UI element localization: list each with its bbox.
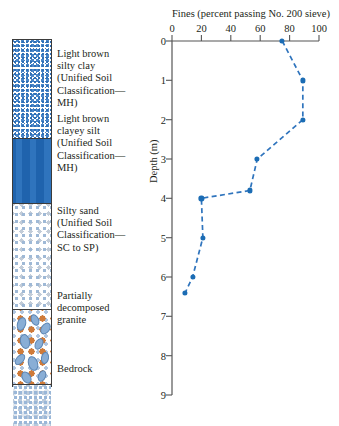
soil-layer-silty-clay — [13, 40, 51, 138]
soil-label-line: Partially — [57, 290, 110, 302]
soil-label-bedrock: Bedrock — [57, 363, 93, 375]
granite-clast — [40, 351, 50, 364]
soil-label-line: MH) — [57, 97, 125, 109]
soil-label-line: (Unified Soil — [57, 217, 125, 229]
granite-clast — [36, 369, 48, 383]
granite-clast — [38, 321, 51, 337]
granite-clast — [26, 355, 40, 372]
soil-label-decomposed-granite: Partially decomposed granite — [57, 290, 110, 327]
soil-layer-bedrock — [13, 384, 51, 426]
soil-layer-silty-sand — [13, 203, 51, 309]
soil-profile-column — [12, 39, 52, 387]
chart-axes — [150, 8, 335, 398]
granite-clast — [13, 352, 27, 367]
soil-label-line: granite — [57, 314, 110, 326]
soil-label-line: SC to SP) — [57, 242, 125, 254]
soil-label-line: (Unified Soil — [57, 72, 125, 84]
soil-label-line: MH) — [57, 162, 125, 174]
soil-label-line: Bedrock — [57, 363, 93, 375]
granite-clast — [33, 337, 46, 351]
soil-label-line: Classification— — [57, 85, 125, 97]
soil-label-silty-sand: Silty sand (Unified Soil Classification—… — [57, 205, 125, 254]
granite-clast — [29, 313, 41, 327]
soil-layer-decomposed-granite — [13, 309, 51, 384]
fines-vs-depth-chart: Fines (percent passing No. 200 sieve) 0 … — [150, 8, 335, 398]
soil-label-silty-clay: Light brown silty clay (Unified Soil Cla… — [57, 48, 125, 109]
x-axis-ticks — [172, 35, 319, 41]
granite-clast — [19, 333, 32, 350]
soil-layer-clayey-silt — [13, 138, 51, 203]
soil-label-line: Silty sand — [57, 205, 125, 217]
soil-label-clayey-silt: Light brown clayey silt (Unified Soil Cl… — [57, 113, 125, 174]
y-axis-ticks — [166, 41, 172, 395]
soil-label-line: decomposed — [57, 302, 110, 314]
soil-label-line: clayey silt — [57, 125, 125, 137]
soil-label-line: Light brown — [57, 113, 125, 125]
soil-label-line: (Unified Soil — [57, 137, 125, 149]
soil-label-line: Light brown — [57, 48, 125, 60]
data-series-line — [185, 41, 303, 293]
soil-label-line: silty clay — [57, 60, 125, 72]
granite-clast — [15, 316, 28, 332]
soil-label-line: Classification— — [57, 150, 125, 162]
granite-clast — [19, 370, 33, 384]
soil-label-line: Classification— — [57, 229, 125, 241]
